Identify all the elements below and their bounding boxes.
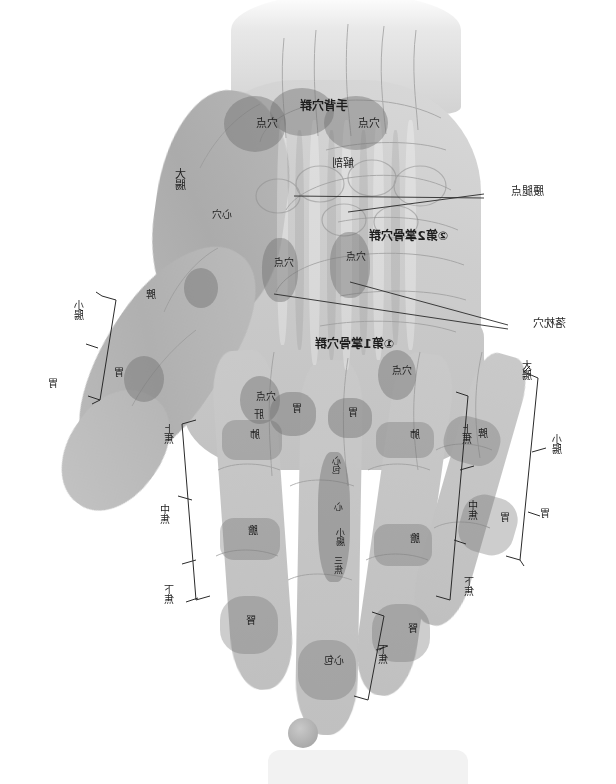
label-middle-tip: 心包 [324, 656, 344, 667]
label-thumb-stomach: 胃 [114, 368, 124, 379]
bracket-left-small-intestine: 小腸 [554, 434, 565, 454]
bracket-right-small-intestine: 小腸 [76, 300, 87, 320]
label-dorsum-point-right: 穴点 [256, 118, 278, 130]
callout-yaotui-label: 腰腿点 [511, 186, 544, 198]
callout-luozhen-label: 落枕穴 [533, 318, 566, 330]
page-root: 手背穴群 穴点 穴点 解剖 心穴 大腸 腰腿点 落枕穴 ②第2掌骨穴群 ①第1掌… [0, 0, 616, 784]
label-middle-triple-burner: 三焦 [335, 556, 344, 574]
bracket-ring-mid-jiao: 中焦 [470, 500, 481, 520]
bracket-index-upper-jiao: 上焦 [166, 424, 177, 444]
label-large-intestine-thenar: 大腸 [176, 168, 188, 190]
thumbnail-avatar[interactable] [288, 718, 318, 748]
label-middle-heart: 心 [335, 502, 344, 511]
hand-chart-figure: 手背穴群 穴点 穴点 解剖 心穴 大腸 腰腿点 落枕穴 ②第2掌骨穴群 ①第1掌… [0, 0, 616, 784]
label-thumb-spleen: 脾 [146, 290, 156, 301]
label-ring-lung: 肺 [410, 430, 420, 441]
bracket-index-mid-jiao: 中焦 [162, 504, 173, 524]
label-ring-kidney: 腎 [408, 624, 418, 635]
bracket-ring-lower-jiao: 下焦 [466, 576, 477, 596]
label-index-liver: 肝 [254, 410, 264, 421]
label-point-d: 穴点 [256, 392, 276, 403]
label-index-gall: 膽 [248, 526, 258, 537]
label-point-a: 穴点 [346, 252, 366, 263]
bottom-toolbar-pill[interactable] [268, 750, 468, 784]
bottom-chrome [0, 738, 616, 784]
bracket-right-stomach: 胃 [50, 378, 61, 388]
bracket-ring-upper-jiao: 上焦 [464, 424, 475, 444]
bracket-index-lower-jiao: 下焦 [166, 584, 177, 604]
bracket-left-stomach: 胃 [542, 508, 553, 518]
label-dorsum-point-left: 穴点 [358, 118, 380, 130]
label-little-stomach: 胃 [502, 512, 513, 522]
label-little-spleen: 脾 [480, 428, 491, 438]
label-point-b: 穴点 [274, 258, 294, 269]
label-point-c: 穴点 [392, 366, 412, 377]
label-index-kidney: 腎 [246, 616, 256, 627]
label-dorsum-group: 手背穴群 [300, 100, 348, 113]
label-metacarpal-group-1: ①第1掌骨穴群 [315, 338, 394, 351]
label-middle-pericardium: 心包 [333, 456, 342, 474]
label-anatomy: 解剖 [332, 158, 354, 170]
label-heart-point: 心穴 [212, 210, 232, 221]
annotation-lines [0, 0, 616, 784]
label-web-right: 胃 [292, 404, 302, 415]
label-index-lung: 肺 [250, 430, 260, 441]
label-ring-gall: 膽 [410, 534, 420, 545]
label-web-left: 胃 [348, 408, 358, 419]
label-middle-small-intestine: 小腸 [337, 528, 346, 546]
bracket-middle-lower-jiao: 下焦 [380, 644, 391, 664]
label-metacarpal-group-2: ②第2掌骨穴群 [369, 230, 448, 243]
bracket-left-large-intestine: 大腸 [524, 360, 535, 380]
